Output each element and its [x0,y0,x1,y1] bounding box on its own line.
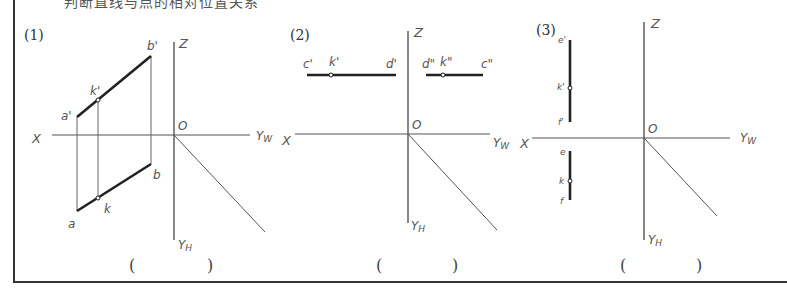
x-axis-label: X [281,133,292,148]
label-k-prime: k' [90,84,100,98]
yw-axis-label: YW [256,129,273,144]
point-k-prime [568,86,572,90]
point-k-double-prime [441,73,445,77]
origin-label: O [412,118,421,132]
label-b: b [153,168,161,182]
label-f-prime: f' [558,117,564,127]
x-axis-label: X [519,136,530,151]
z-axis-label: Z [178,36,189,51]
panel-3: (3) X Z O YW YH e' k' f' e k f ( ) [519,16,757,275]
panel-1: (1) X Z O YW YH a' k' b' a k b ( ) [24,27,273,275]
answer-close-paren: ) [207,256,213,275]
origin-label: O [178,119,187,133]
projection-diagram: (1) X Z O YW YH a' k' b' a k b ( ) (2) X [0,0,787,296]
line-ab-front-view [77,56,151,117]
yh-axis-label: YH [411,219,425,234]
z-axis-label: Z [650,16,661,31]
answer-open-paren: ( [620,256,626,275]
label-d-prime: d' [386,57,397,71]
45-degree-line [174,135,265,232]
panel-number: (2) [290,27,310,43]
panel-number: (1) [24,27,44,43]
label-b-prime: b' [147,39,158,53]
answer-open-paren: ( [376,256,382,275]
label-k-double-prime: k" [440,55,452,69]
yh-axis-label: YH [648,233,662,248]
panel-number: (3) [536,22,556,38]
point-k [96,196,100,200]
x-axis-label: X [31,131,42,146]
label-k-prime: k' [329,55,339,69]
yh-axis-label: YH [178,238,192,253]
label-a-prime: a' [61,109,72,123]
answer-close-paren: ) [696,256,702,275]
45-degree-line [408,134,497,230]
origin-label: O [648,122,657,136]
answer-close-paren: ) [452,256,458,275]
label-a: a [68,217,75,231]
frame [13,0,787,282]
point-k-prime [329,73,333,77]
z-axis-label: Z [413,25,424,40]
label-d-double-prime: d" [422,57,435,71]
point-k-prime [96,98,100,102]
label-k: k [559,176,565,186]
panel-2: (2) X Z O YW YH c' k' d' d" k" c" ( ) [281,25,510,275]
label-c-prime: c' [303,57,313,71]
answer-open-paren: ( [129,256,135,275]
45-degree-line [644,138,717,216]
point-k [568,179,572,183]
label-e-prime: e' [558,35,566,45]
yw-axis-label: YW [493,136,510,151]
label-f: f [560,196,565,206]
label-k-prime: k' [557,82,565,92]
label-e: e [560,147,566,157]
label-k: k [104,202,112,216]
yw-axis-label: YW [740,131,757,146]
line-ab-top-view [77,164,151,211]
label-c-double-prime: c" [481,57,493,71]
